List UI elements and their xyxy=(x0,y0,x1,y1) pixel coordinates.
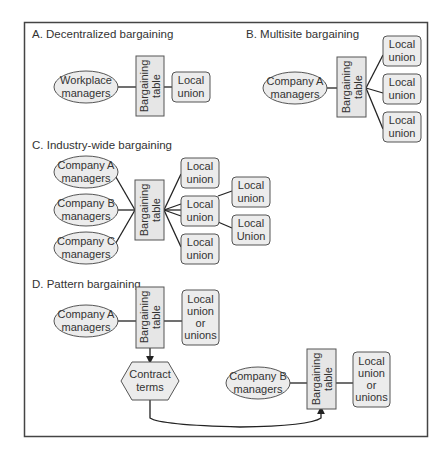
node-label: table xyxy=(150,198,162,222)
node-label: union xyxy=(187,211,214,223)
node-label: Company B xyxy=(57,197,114,209)
node-label: table xyxy=(352,75,364,99)
node-label: managers xyxy=(62,248,111,260)
node-label: Company B xyxy=(229,370,286,382)
node-label: Local xyxy=(389,76,415,88)
node-label: or xyxy=(367,379,377,391)
node-label: Bargaining xyxy=(138,291,150,344)
node-label: Company C xyxy=(57,235,115,247)
node-label: Local xyxy=(187,236,213,248)
node-label: Workplace xyxy=(60,74,112,86)
node-label: union xyxy=(187,305,214,317)
node-label: union xyxy=(187,249,214,261)
node-label: Company A xyxy=(267,75,325,87)
section-c-title: C. Industry-wide bargaining xyxy=(32,139,172,151)
node-label: Contract xyxy=(129,368,171,380)
node-label: union xyxy=(178,87,205,99)
node-label: table xyxy=(150,74,162,98)
node-label: managers xyxy=(271,88,320,100)
node-label: Local xyxy=(238,179,264,191)
node-label: union xyxy=(389,89,416,101)
node-label: managers xyxy=(62,210,111,222)
node-label: Local xyxy=(178,74,204,86)
node-label: Local xyxy=(187,293,213,305)
node-label: Local xyxy=(389,38,415,50)
section-d-title: D. Pattern bargaining xyxy=(32,278,141,290)
node-label: unions xyxy=(355,391,388,403)
node-label: terms xyxy=(136,381,164,393)
section-b-title: B. Multisite bargaining xyxy=(246,28,359,40)
node-label: managers xyxy=(62,172,111,184)
node-label: Local xyxy=(389,114,415,126)
node-label: Union xyxy=(237,230,266,242)
node-label: Local xyxy=(238,217,264,229)
node-label: unions xyxy=(184,329,217,341)
section-a-title: A. Decentralized bargaining xyxy=(32,28,173,40)
node-label: table xyxy=(322,367,334,391)
node-label: managers xyxy=(62,321,111,333)
node-label: union xyxy=(389,127,416,139)
node-label: union xyxy=(389,51,416,63)
node-label: Bargaining xyxy=(138,60,150,113)
node-label: Local xyxy=(187,198,213,210)
node-label: Local xyxy=(358,355,384,367)
node-label: table xyxy=(150,305,162,329)
node-label: Bargaining xyxy=(138,184,150,237)
node-label: union xyxy=(238,192,265,204)
node-label: union xyxy=(358,367,385,379)
node-label: or xyxy=(196,317,206,329)
node-label: managers xyxy=(62,87,111,99)
node-label: union xyxy=(187,173,214,185)
node-label: Local xyxy=(187,160,213,172)
node-label: Company A xyxy=(58,308,116,320)
node-label: Company A xyxy=(58,159,116,171)
node-label: managers xyxy=(234,383,283,395)
node-label: Bargaining xyxy=(310,353,322,406)
node-label: Bargaining xyxy=(340,61,352,114)
bargaining-structures-diagram: A. Decentralized bargaining Workplace ma… xyxy=(0,0,447,456)
